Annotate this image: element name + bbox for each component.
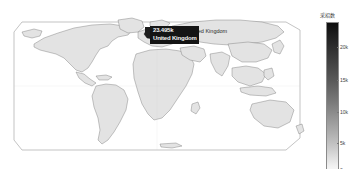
legend-tickmark-10k [337, 112, 339, 113]
world-map-panel[interactable]: United Kingdom 23.495k United Kingdom [0, 0, 308, 169]
colorbar-legend[interactable]: 采招数 20k 15k 10k 5k 0 [316, 12, 354, 169]
legend-tick-label-5k: 5k [340, 140, 345, 146]
legend-tick-label-0: 0 [340, 167, 343, 169]
legend-tickmark-15k [337, 80, 339, 81]
legend-title: 采招数 [320, 12, 335, 19]
legend-tickmark-5k [337, 143, 339, 144]
colorbar-gradient[interactable] [326, 22, 339, 169]
tooltip-region-name: United Kingdom [153, 35, 197, 42]
legend-tickmark-20k [337, 47, 339, 48]
legend-tick-label-20k: 20k [340, 44, 348, 50]
tooltip-value: 23.495k [153, 27, 197, 34]
legend-tick-label-15k: 15k [340, 77, 348, 83]
legend-tick-label-10k: 10k [340, 109, 348, 115]
map-tooltip: 23.495k United Kingdom [150, 26, 199, 44]
